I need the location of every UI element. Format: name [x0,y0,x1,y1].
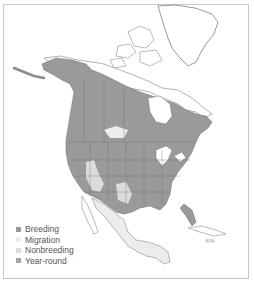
legend-label: Year-round [25,256,67,267]
legend-label: Nonbreeding [25,245,74,256]
legend-label: Breeding [25,224,59,235]
greenland-outline [158,5,218,66]
legend-swatch-nonbreeding [16,248,21,253]
legend-item-migration: Migration [16,235,74,246]
arctic-islands [110,26,162,68]
legend-item-year-round: Year-round [16,256,74,267]
legend-label: Migration [25,235,60,246]
aleutians [14,68,44,78]
legend-swatch-breeding [16,227,21,232]
florida [180,204,196,226]
legend-swatch-year-round [16,258,21,263]
legend-swatch-migration [16,237,21,242]
legend-item-nonbreeding: Nonbreeding [16,245,74,256]
legend-item-breeding: Breeding [16,224,74,235]
caribbean [188,226,226,242]
map-legend: Breeding Migration Nonbreeding Year-roun… [16,224,74,266]
